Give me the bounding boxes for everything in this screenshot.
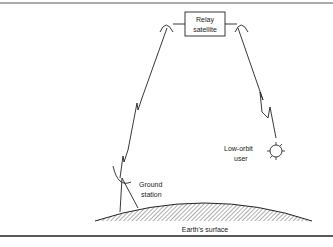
earth-surface: Earth's surface [90, 180, 320, 233]
relay-satellite-label-line2: satellite [193, 26, 217, 33]
relay-satellite: Relay satellite [160, 12, 248, 36]
relay-satellite-label-line1: Relay [196, 16, 214, 24]
earth-hatching [90, 180, 320, 225]
earth-surface-label: Earth's surface [182, 226, 229, 233]
uplink-signal-path [120, 28, 167, 178]
ground-station-label-line1: Ground [139, 181, 162, 188]
crosslink-signal-path [238, 28, 276, 138]
low-orbit-user: Low-orbit user [224, 142, 285, 162]
ground-station-label-line2: station [141, 191, 162, 198]
low-orbit-user-label-line2: user [234, 155, 248, 162]
low-orbit-user-label-line1: Low-orbit [224, 145, 253, 152]
user-antenna-stub [280, 144, 282, 146]
ground-station-mast-left [120, 178, 122, 212]
relay-satellite-diagram: Relay satellite Ground station Low-orbit… [0, 0, 333, 247]
low-orbit-user-satellite-icon [270, 145, 282, 157]
user-antenna-stub [270, 156, 272, 158]
right-dish-antenna-icon [235, 25, 248, 32]
